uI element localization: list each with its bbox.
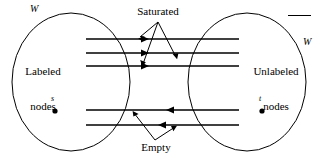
saturated-leader-arrowhead-2: [173, 53, 179, 59]
saturated-arc-group: [86, 36, 239, 70]
left-set-caption-line2: nodes: [10, 101, 76, 113]
max-flow-cut-diagram: W W Labeled nodes Unlabeled nodes s t Sa…: [0, 0, 319, 164]
saturated-callout-leaders: [138, 22, 178, 66]
right-set-caption-line2: nodes: [240, 101, 312, 113]
sink-node-label: t: [259, 95, 261, 104]
left-set-caption: Labeled nodes: [10, 42, 76, 137]
right-set-caption: Unlabeled nodes: [240, 42, 312, 137]
saturated-callout-label: Saturated: [126, 6, 190, 18]
left-set-caption-line1: Labeled: [10, 66, 76, 78]
empty-callout-label: Empty: [128, 142, 184, 154]
overbar-rule: [288, 15, 311, 16]
right-set-caption-line1: Unlabeled: [240, 66, 312, 78]
empty-arc-arrowhead-2: [158, 122, 166, 129]
empty-arc-arrowhead-1: [166, 107, 174, 114]
empty-arc-group: [86, 107, 239, 129]
left-set-symbol: W: [30, 4, 38, 15]
source-node-label: s: [51, 95, 54, 104]
